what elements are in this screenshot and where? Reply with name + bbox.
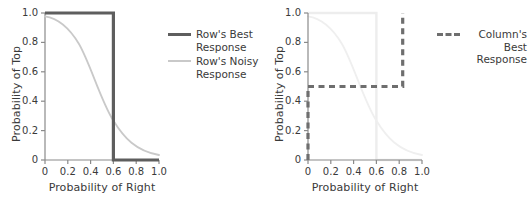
legend-item-rows-best-response[interactable]: Row's BestResponse (168, 28, 258, 53)
legend-label-columns-best-response: Column'sBestResponse (465, 28, 527, 66)
right-ytick-5: 1.0 (275, 7, 301, 18)
legend-label-line2: Best (504, 41, 527, 53)
left-legend: Row's BestResponse Row's NoisyResponse (168, 28, 258, 80)
legend-line-solid-thin-icon (168, 60, 191, 62)
legend-line-solid-thick-icon (168, 33, 191, 36)
legend-label-line3: Response (477, 53, 527, 65)
left-series-row-noisy-response (45, 16, 159, 155)
legend-label-line1: Row's Noisy (196, 55, 258, 67)
legend-label-line1: Column's (478, 28, 527, 40)
right-legend: Column'sBestResponse (437, 28, 527, 66)
legend-line-dashed-icon (437, 33, 460, 36)
figure-two-panel-best-response: 0 0.2 0.4 0.6 0.8 1.0 0 0.2 0.4 0.6 0.8 … (0, 0, 530, 203)
legend-label-line2: Response (196, 41, 246, 53)
legend-item-columns-best-response[interactable]: Column'sBestResponse (437, 28, 527, 66)
right-ytick-0: 0 (275, 154, 301, 165)
left-y-axis-label: Probability of Top (10, 46, 23, 142)
right-xtick-5: 1.0 (407, 166, 437, 177)
panel-left: 0 0.2 0.4 0.6 0.8 1.0 0 0.2 0.4 0.6 0.8 … (0, 0, 265, 203)
right-x-axis-label: Probability of Right (300, 181, 430, 194)
legend-label-line2: Response (196, 68, 246, 80)
legend-label-line1: Row's Best (196, 28, 253, 40)
legend-label-rows-noisy-response: Row's NoisyResponse (196, 55, 258, 80)
left-x-axis-label: Probability of Right (37, 181, 167, 194)
left-series-row-best-response (45, 13, 159, 160)
right-y-axis-label: Probability of Top (273, 46, 286, 142)
legend-item-rows-noisy-response[interactable]: Row's NoisyResponse (168, 55, 258, 80)
panel-right: 0 0.2 0.4 0.6 0.8 1.0 0 0.2 0.4 0.6 0.8 … (265, 0, 530, 203)
left-ytick-5: 1.0 (12, 7, 38, 18)
left-xtick-5: 1.0 (144, 166, 174, 177)
legend-label-rows-best-response: Row's BestResponse (196, 28, 253, 53)
left-ytick-0: 0 (12, 154, 38, 165)
